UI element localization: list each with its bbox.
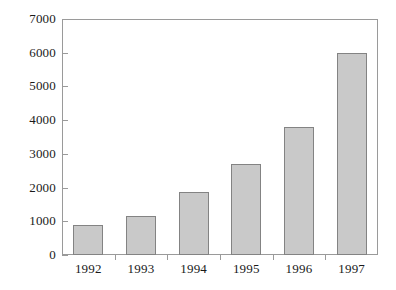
y-axis: 01000200030004000500060007000	[0, 0, 56, 290]
y-axis-tick-label: 7000	[0, 12, 56, 25]
y-axis-tick-mark	[62, 120, 68, 121]
y-axis-tick-label: 0	[0, 248, 56, 261]
x-axis-tick-label: 1993	[115, 262, 168, 275]
x-axis-tick-mark	[220, 255, 221, 260]
x-axis-tick-label: 1994	[167, 262, 220, 275]
y-axis-tick-label: 6000	[0, 46, 56, 59]
y-axis-tick-label: 2000	[0, 181, 56, 194]
x-axis-tick-mark	[325, 255, 326, 260]
y-axis-tick-mark	[62, 255, 68, 256]
x-axis-tick-label: 1992	[62, 262, 115, 275]
x-axis-tick-mark	[273, 255, 274, 260]
y-axis-tick-mark	[62, 188, 68, 189]
bar	[73, 225, 103, 255]
bar	[337, 53, 367, 255]
y-axis-tick-label: 4000	[0, 113, 56, 126]
plot-area-frame	[62, 19, 378, 255]
bar	[284, 127, 314, 255]
y-axis-tick-label: 3000	[0, 147, 56, 160]
y-axis-tick-mark	[62, 53, 68, 54]
x-axis-tick-label: 1996	[273, 262, 326, 275]
y-axis-tick-mark	[62, 154, 68, 155]
bar	[126, 216, 156, 255]
x-axis-tick-mark	[115, 255, 116, 260]
bar-chart: 01000200030004000500060007000 1992199319…	[0, 0, 396, 290]
y-axis-tick-label: 1000	[0, 214, 56, 227]
y-axis-tick-mark	[62, 221, 68, 222]
x-axis-tick-mark	[167, 255, 168, 260]
x-axis-tick-label: 1997	[325, 262, 378, 275]
y-axis-tick-label: 5000	[0, 79, 56, 92]
bar	[179, 192, 209, 255]
x-axis-tick-label: 1995	[220, 262, 273, 275]
y-axis-tick-mark	[62, 19, 68, 20]
y-axis-tick-mark	[62, 86, 68, 87]
bar	[231, 164, 261, 255]
